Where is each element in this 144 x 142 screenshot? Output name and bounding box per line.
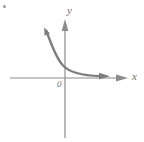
x-axis-arrowhead bbox=[116, 75, 128, 82]
y-axis-arrowhead bbox=[62, 19, 69, 31]
exponential-decay-curve bbox=[47, 31, 101, 76]
plot-canvas bbox=[0, 0, 144, 142]
curve-upper-arrowhead bbox=[44, 27, 50, 36]
exponential-decay-figure: y x 0 bbox=[0, 0, 144, 142]
x-axis-label: x bbox=[132, 71, 137, 82]
curve-group bbox=[44, 27, 110, 79]
y-axis-label: y bbox=[67, 5, 72, 16]
origin-label: 0 bbox=[57, 80, 62, 89]
axes-group bbox=[10, 19, 128, 138]
